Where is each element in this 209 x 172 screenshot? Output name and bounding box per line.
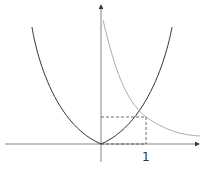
graph-canvas: 1 <box>0 0 209 172</box>
parabola-curve <box>32 27 172 144</box>
hyperbola-curve <box>103 20 200 136</box>
x-tick-label: 1 <box>142 150 150 164</box>
